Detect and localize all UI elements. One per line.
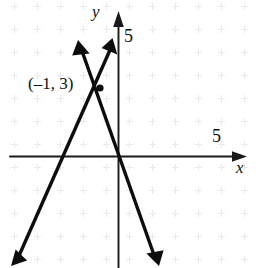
intersection-point-label: (–1, 3) <box>28 74 73 94</box>
intersection-point <box>96 84 103 91</box>
x-axis-tick-label-5: 5 <box>212 126 221 147</box>
graph-figure: y x 5 5 (–1, 3) <box>0 0 259 268</box>
y-axis-label: y <box>92 2 100 22</box>
y-axis-tick-label-5: 5 <box>124 26 133 47</box>
x-axis-label: x <box>236 158 244 178</box>
